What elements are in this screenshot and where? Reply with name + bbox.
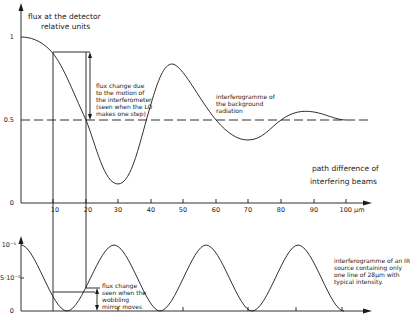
upper-y-axis-label-line2: relative units	[41, 22, 90, 31]
x-axis-label-line2: interfering beams	[310, 177, 377, 186]
annotation-line: the background	[216, 100, 263, 107]
x-axis-label-line1: path difference of	[312, 164, 379, 173]
wobble-arrow-down-icon	[95, 305, 99, 311]
lower-y-tick-5e-5: 5·10⁻⁵	[0, 274, 20, 282]
upper-y-tick-1: 1	[0, 33, 14, 41]
annotation-line: interferogramme of an IR	[334, 257, 410, 264]
upper-x-axis-arrow-icon	[363, 201, 372, 206]
annotation-line: radiation	[216, 107, 243, 114]
lower-y-axis-arrow-icon	[19, 236, 24, 244]
annotation-line: flux change	[102, 282, 137, 289]
x-tick-10: 10	[51, 206, 59, 214]
annotation-line: mirror moves	[102, 303, 142, 310]
upper-y-axis-label-line1: flux at the detector	[28, 12, 101, 21]
annotation-line: interferogramme of	[216, 93, 275, 100]
x-tick-50: 50	[179, 206, 187, 214]
x-tick-70: 70	[244, 206, 252, 214]
flux-change-arrow-down-icon	[88, 114, 92, 120]
x-tick-60: 60	[212, 206, 220, 214]
x-tick-100: 100 µm	[340, 206, 365, 214]
annotation-line: makes one step)	[96, 110, 146, 117]
ir-source-interferogram-curve	[21, 245, 344, 311]
annotation-line: source containing only	[334, 264, 402, 271]
annotation-line: the interferometer	[96, 96, 152, 103]
lower-x-ticks	[21, 278, 342, 311]
flux-change-arrow-up-icon	[88, 52, 92, 58]
annotation-line: to the motion of	[96, 89, 144, 96]
x-tick-80: 80	[277, 206, 285, 214]
upper-y-tick-0: 0	[0, 199, 14, 207]
lower-y-tick-0: 0	[0, 307, 14, 315]
x-tick-30: 30	[114, 206, 122, 214]
x-tick-20: 20	[84, 206, 92, 214]
annotation-line: (seen when the LO	[96, 103, 152, 110]
annotation-line: flux change due	[96, 82, 144, 89]
wobble-arrow-up-icon	[95, 288, 99, 294]
upper-y-tick-0-5: 0.5	[0, 116, 14, 124]
background-interferogram-curve	[21, 37, 346, 184]
lower-y-tick-1e-5: 10⁻⁵	[0, 241, 16, 249]
annotation-line: one line of 28µm with	[334, 271, 399, 278]
lower-x-axis-arrow-icon	[363, 309, 372, 314]
x-tick-40: 40	[147, 206, 155, 214]
annotation-line: wobbling	[102, 296, 129, 303]
annotation-line: typical intensity.	[334, 278, 383, 285]
upper-x-ticks	[53, 199, 346, 203]
upper-y-axis-arrow-icon	[19, 3, 24, 11]
annotation-line: seen when the	[102, 289, 146, 296]
x-tick-90: 90	[310, 206, 318, 214]
